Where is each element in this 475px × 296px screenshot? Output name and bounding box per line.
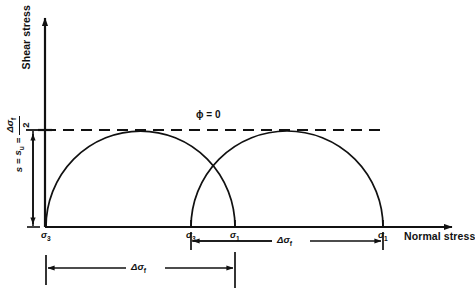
su-symbol: su [12, 146, 25, 155]
fraction-denominator: 2 [20, 122, 31, 127]
tick-label-sigma3-middle: σ3 [186, 230, 196, 242]
tick-label-sigma1-middle: σ1 [230, 230, 240, 242]
undrained-strength-label: s = su = Δσf 2 [4, 95, 32, 193]
y-axis-title: Shear stress [21, 0, 32, 85]
equals-2: = [13, 138, 24, 144]
mohr-circle-1 [46, 131, 235, 227]
tick-label-sigma3-left: σ3 [41, 230, 51, 242]
tick-label-sigma1-right: σ1 [378, 230, 388, 242]
phi-zero-label: ϕ = 0 [196, 110, 220, 120]
delta-sigma-f-lower-label: Δσf [131, 261, 146, 274]
delta-sigma-over-two-fraction: Δσf 2 [5, 116, 30, 135]
delta-sigma-f-upper-label: Δσf [277, 234, 292, 247]
x-axis-title: Normal stress [404, 231, 475, 242]
fraction-numerator: Δσf [5, 116, 18, 135]
mohr-circle-2 [191, 131, 383, 227]
s-symbol: s [13, 167, 24, 172]
equals-1: = [13, 158, 24, 164]
